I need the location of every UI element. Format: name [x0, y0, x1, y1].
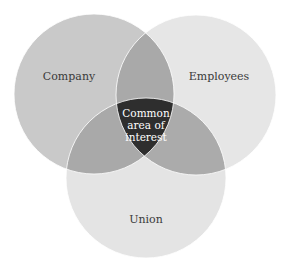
center-label-line-3: interest [125, 131, 167, 143]
center-label-line-2: area of [127, 119, 165, 131]
venn-diagram: Company Employees Union Common area of i… [0, 0, 284, 260]
company-label: Company [43, 70, 96, 83]
employees-label: Employees [189, 70, 250, 83]
union-label: Union [129, 213, 163, 226]
center-label-line-1: Common [122, 107, 170, 119]
